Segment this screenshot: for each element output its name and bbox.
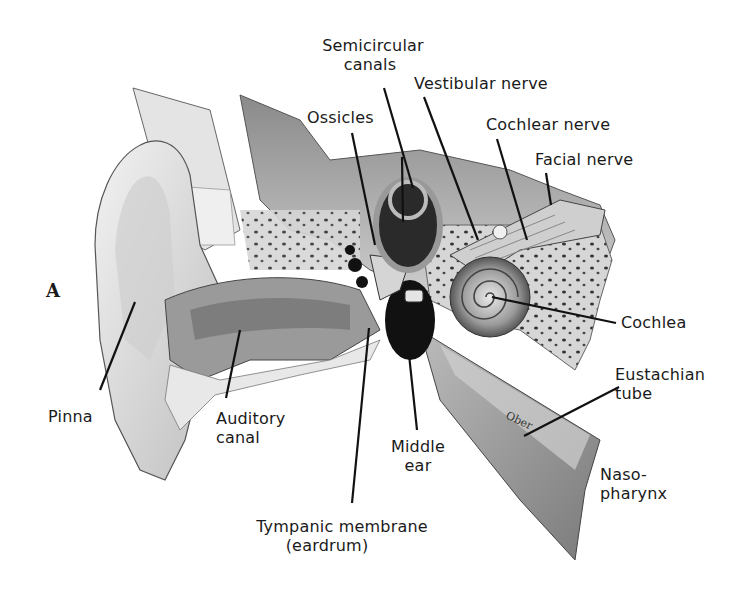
label-vestibular-nerve: Vestibular nerve (414, 74, 548, 93)
label-auditory-canal: Auditory canal (216, 409, 285, 447)
label-facial-nerve: Facial nerve (535, 150, 633, 169)
label-line: Tympanic membrane (242, 517, 442, 536)
label-pinna: Pinna (48, 407, 93, 426)
ear-anatomy-diagram: Ober (0, 0, 756, 589)
label-middle-ear: Middle ear (383, 437, 453, 475)
label-line: Eustachian (615, 365, 705, 384)
label-line: (eardrum) (212, 536, 442, 555)
label-nasopharynx: Naso- pharynx (600, 465, 667, 503)
label-line: canals (312, 55, 428, 74)
cochlea-shape (450, 257, 530, 337)
label-line: Semicircular (318, 36, 428, 55)
label-cochlear-nerve: Cochlear nerve (486, 115, 610, 134)
label-ossicles: Ossicles (307, 108, 374, 127)
label-line: ear (383, 456, 453, 475)
auditory-canal-shape (165, 278, 380, 430)
label-line: Auditory (216, 409, 285, 428)
leader-semicircular-canals-2 (402, 157, 403, 222)
panel-letter: A (46, 280, 60, 301)
label-tympanic-membrane: Tympanic membrane (eardrum) (242, 517, 442, 555)
label-cochlea: Cochlea (621, 313, 686, 332)
label-line: Naso- (600, 465, 667, 484)
label-eustachian-tube: Eustachian tube (615, 365, 705, 403)
label-semicircular-canals: Semicircular canals (318, 36, 428, 74)
label-line: Middle (383, 437, 453, 456)
label-line: canal (216, 428, 285, 447)
label-line: pharynx (600, 484, 667, 503)
label-line: tube (615, 384, 705, 403)
semicircular-canals-shape (376, 180, 440, 270)
